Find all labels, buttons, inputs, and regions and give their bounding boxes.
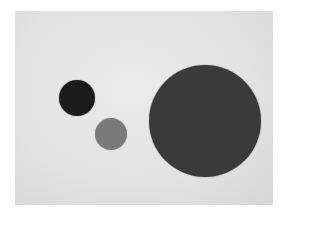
small-dark-disc [59, 80, 95, 116]
medium-gray-disc [95, 118, 127, 150]
large-dark-disc [149, 65, 261, 177]
